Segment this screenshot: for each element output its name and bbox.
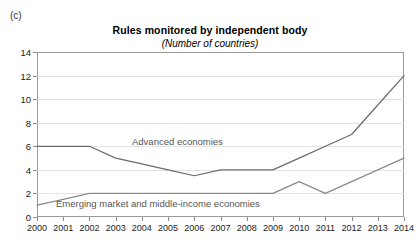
x-tick-mark xyxy=(168,217,169,221)
x-tick-label: 2005 xyxy=(158,223,178,233)
x-tick-label: 2008 xyxy=(237,223,257,233)
series-lines xyxy=(37,52,404,217)
x-tick-label: 2006 xyxy=(184,223,204,233)
y-tick-label: 10 xyxy=(5,94,31,105)
series-label-emerging-economies: Emerging market and middle-income econom… xyxy=(56,198,260,209)
x-tick-mark xyxy=(378,217,379,221)
x-tick-label: 2003 xyxy=(106,223,126,233)
x-tick-mark xyxy=(63,217,64,221)
x-tick-mark xyxy=(194,217,195,221)
chart-subtitle: (Number of countries) xyxy=(0,37,420,50)
title-block: Rules monitored by independent body (Num… xyxy=(0,24,420,50)
series-label-advanced-economies: Advanced economies xyxy=(132,136,223,147)
y-tick-label: 6 xyxy=(5,141,31,152)
chart-title: Rules monitored by independent body xyxy=(0,24,420,37)
x-tick-label: 2010 xyxy=(289,223,309,233)
x-tick-mark xyxy=(89,217,90,221)
x-tick-mark xyxy=(404,217,405,221)
panel-label: (c) xyxy=(10,10,22,21)
x-tick-label: 2009 xyxy=(263,223,283,233)
y-tick-label: 8 xyxy=(5,117,31,128)
x-tick-label: 2012 xyxy=(342,223,362,233)
x-tick-mark xyxy=(273,217,274,221)
x-tick-mark xyxy=(116,217,117,221)
x-tick-label: 2000 xyxy=(27,223,47,233)
x-tick-mark xyxy=(37,217,38,221)
x-tick-mark xyxy=(325,217,326,221)
x-tick-mark xyxy=(352,217,353,221)
y-tick-label: 2 xyxy=(5,188,31,199)
x-tick-mark xyxy=(221,217,222,221)
x-tick-label: 2002 xyxy=(79,223,99,233)
y-tick-label: 14 xyxy=(5,47,31,58)
x-tick-label: 2014 xyxy=(394,223,414,233)
x-tick-label: 2007 xyxy=(210,223,230,233)
y-tick-label: 12 xyxy=(5,70,31,81)
x-tick-mark xyxy=(299,217,300,221)
line-advanced-economies xyxy=(37,76,404,176)
chart-plot-area: 02468101214 2000200120022003200420052006… xyxy=(37,52,404,217)
x-tick-label: 2004 xyxy=(132,223,152,233)
x-tick-mark xyxy=(142,217,143,221)
x-tick-label: 2013 xyxy=(368,223,388,233)
x-tick-label: 2001 xyxy=(53,223,73,233)
y-tick-label: 0 xyxy=(5,212,31,223)
y-tick-label: 4 xyxy=(5,164,31,175)
x-tick-mark xyxy=(247,217,248,221)
x-tick-label: 2011 xyxy=(316,223,335,233)
